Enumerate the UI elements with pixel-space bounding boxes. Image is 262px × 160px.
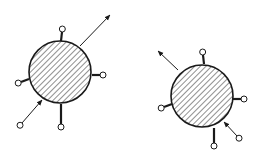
particle-right — [158, 49, 247, 149]
hatched-particle — [171, 65, 233, 127]
arrow-line — [22, 100, 42, 123]
particle-left — [15, 15, 110, 130]
arrow-line — [224, 122, 237, 136]
pin-stem — [164, 104, 172, 107]
pin-stem — [203, 55, 204, 64]
pin-ring-icon — [15, 80, 21, 86]
ligand-pin — [92, 72, 106, 78]
ligand-pin — [59, 26, 65, 41]
particle-diagram — [0, 0, 262, 160]
tethered-ligand-arrow — [224, 122, 242, 141]
pin-ring-icon — [158, 105, 164, 111]
ligand-pin — [58, 104, 64, 130]
pin-ring-icon — [59, 26, 65, 32]
pin-ring-icon — [100, 72, 106, 78]
ligand-ring-icon — [236, 135, 242, 141]
ligand-pin — [15, 79, 29, 86]
arrow-line — [158, 51, 178, 70]
pin-stem — [21, 79, 29, 82]
pin-ring-icon — [58, 124, 64, 130]
tethered-ligand-arrow — [17, 100, 42, 128]
diagram-canvas — [0, 0, 262, 160]
pin-ring-icon — [241, 96, 247, 102]
arrow-line — [80, 15, 110, 46]
pin-stem — [61, 32, 62, 41]
ligand-pin — [233, 96, 247, 102]
pin-ring-icon — [200, 49, 206, 55]
pin-ring-icon — [211, 143, 217, 149]
direction-arrow — [158, 51, 178, 70]
ligand-pin — [200, 49, 206, 64]
ligand-pin — [211, 128, 217, 149]
particles-layer — [15, 15, 247, 149]
hatched-particle — [29, 41, 91, 103]
direction-arrow — [80, 15, 110, 46]
ligand-pin — [158, 104, 172, 111]
ligand-ring-icon — [17, 122, 23, 128]
